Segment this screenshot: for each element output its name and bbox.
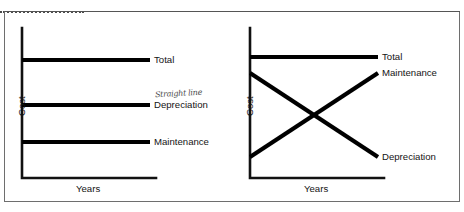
chart-left: Cost Years Total Straight line Depreciat…	[4, 11, 232, 202]
figure-canvas: Maintenance vs Cost Years Total Straight…	[0, 0, 464, 212]
chart-left-label-maintenance: Maintenance	[154, 137, 209, 147]
chart-right-label-total: Total	[382, 52, 402, 62]
chart-left-x-axis-label: Years	[76, 183, 100, 194]
chart-right-axes	[250, 28, 384, 178]
chart-right-x-axis-label: Years	[304, 183, 328, 194]
chart-right-label-depreciation: Depreciation	[382, 152, 436, 162]
chart-left-label-total: Total	[154, 55, 174, 65]
chart-right-plot	[232, 11, 460, 202]
chart-right: Cost Years Total Maintenance Depreciatio…	[232, 11, 460, 202]
chart-right-label-maintenance: Maintenance	[382, 68, 437, 78]
chart-right-y-axis-label: Cost	[244, 96, 255, 116]
chart-left-label-depreciation: Depreciation	[154, 100, 208, 110]
chart-left-y-axis-label: Cost	[16, 96, 27, 116]
